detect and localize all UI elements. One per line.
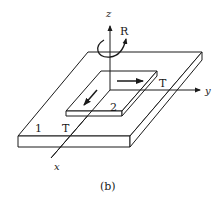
diagram: z R y x T T 2 1 (b) (0, 0, 224, 202)
z-axis-label: z (105, 8, 112, 19)
plate-small-label: 2 (110, 101, 117, 114)
y-axis-label: y (204, 85, 211, 96)
rotation-label: R (120, 25, 129, 38)
translation-label-x: T (62, 122, 70, 135)
figure-caption: (b) (100, 180, 116, 193)
plate-large-label: 1 (35, 122, 42, 135)
x-axis-label: x (54, 161, 60, 172)
translation-label-y: T (159, 77, 167, 90)
